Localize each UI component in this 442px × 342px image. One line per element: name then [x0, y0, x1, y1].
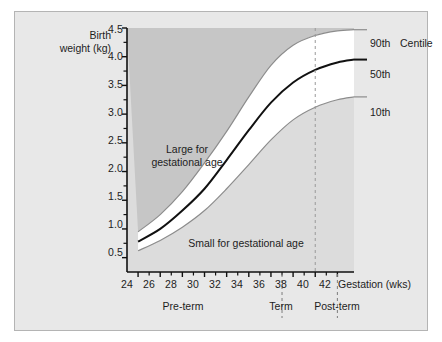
region-label-large-for-gestational-age: Large for gestational age — [139, 143, 235, 168]
region-label-large-line1: Large for — [139, 143, 235, 156]
y-tick-label-4.5: 4.5 — [97, 23, 123, 35]
x-tick-label-42: 42 — [314, 278, 336, 290]
x-tick-label-36: 36 — [248, 278, 270, 290]
x-tick-label-40: 40 — [292, 278, 314, 290]
x-tick-label-24: 24 — [116, 278, 138, 290]
y-tick-label-1.5: 1.5 — [97, 190, 123, 202]
x-tick-label-30: 30 — [182, 278, 204, 290]
x-tick-label-28: 28 — [160, 278, 182, 290]
period-label-post-term: Post-term — [306, 300, 368, 312]
x-tick-label-38: 38 — [270, 278, 292, 290]
y-tick-label-2.5: 2.5 — [97, 134, 123, 146]
chart-figure: Birth weight (kg) 4.5 4.0 3.5 3.0 2.5 2.… — [14, 11, 428, 331]
y-tick-label-3.0: 3.0 — [97, 106, 123, 118]
y-tick-label-2.0: 2.0 — [97, 162, 123, 174]
centile-label-90th: 90th — [370, 37, 390, 49]
period-label-term: Term — [261, 300, 301, 312]
period-label-pre-term: Pre-term — [153, 300, 213, 312]
centile-legend-title: Centile — [400, 37, 433, 49]
x-axis-title: Gestation (wks) — [338, 278, 411, 290]
y-tick-label-0.5: 0.5 — [97, 246, 123, 258]
region-label-small-for-gestational-age: Small for gestational age — [176, 237, 316, 250]
x-tick-label-26: 26 — [138, 278, 160, 290]
y-tick-label-3.5: 3.5 — [97, 78, 123, 90]
centile-leader-lines — [354, 30, 367, 97]
x-tick-label-34: 34 — [226, 278, 248, 290]
centile-label-50th: 50th — [370, 68, 390, 80]
y-tick-label-1.0: 1.0 — [97, 218, 123, 230]
y-tick-label-4.0: 4.0 — [97, 50, 123, 62]
x-tick-label-32: 32 — [204, 278, 226, 290]
centile-label-10th: 10th — [370, 106, 390, 118]
region-label-large-line2: gestational age — [139, 156, 235, 169]
